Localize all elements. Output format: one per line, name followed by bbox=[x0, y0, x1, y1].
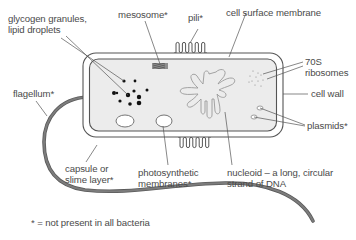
pili-bottom bbox=[178, 137, 211, 148]
label-ribosomes-line-1: 70S bbox=[305, 56, 348, 67]
label-plasmids: plasmids* bbox=[307, 120, 348, 131]
label-ribosomes-line-2: ribosomes bbox=[305, 67, 348, 78]
label-cell-wall: cell wall bbox=[311, 88, 344, 99]
label-nucleoid-line-2: strand of DNA bbox=[227, 178, 333, 189]
label-capsule-line-2: slime layer* bbox=[65, 174, 113, 185]
label-photosynthetic-line-2: membranes* bbox=[138, 178, 198, 189]
label-flagellum: flagellum* bbox=[13, 88, 54, 99]
label-glycogen-line-1: glycogen granules, bbox=[8, 13, 87, 24]
footnote: * = not present in all bacteria bbox=[31, 217, 150, 228]
label-ribosomes: 70S ribosomes bbox=[305, 56, 348, 78]
label-mesosome: mesosome* bbox=[118, 9, 168, 20]
label-capsule: capsule or slime layer* bbox=[65, 163, 113, 185]
pili-top bbox=[174, 42, 207, 53]
label-capsule-line-1: capsule or bbox=[65, 163, 113, 174]
label-pili: pili* bbox=[188, 12, 203, 23]
label-glycogen: glycogen granules, lipid droplets bbox=[8, 13, 87, 35]
label-glycogen-line-2: lipid droplets bbox=[8, 24, 87, 35]
label-nucleoid-line-1: nucleoid – a long, circular bbox=[227, 167, 333, 178]
label-photosynthetic-line-1: photosynthetic bbox=[138, 167, 198, 178]
label-photosynthetic: photosynthetic membranes* bbox=[138, 167, 198, 189]
label-nucleoid: nucleoid – a long, circular strand of DN… bbox=[227, 167, 333, 189]
bacterial-cell-diagram bbox=[0, 0, 356, 240]
label-cell-surface-membrane: cell surface membrane bbox=[226, 7, 321, 18]
